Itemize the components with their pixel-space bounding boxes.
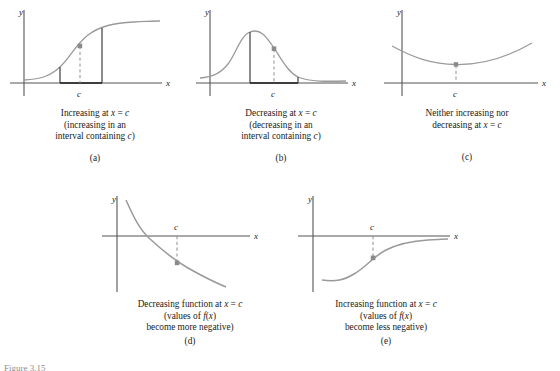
c-label: c: [174, 222, 178, 232]
point-marker: [78, 44, 83, 49]
plot-c-neither-increasing-nor-decreasing: y x c: [374, 4, 560, 104]
curve-parabola: [392, 43, 532, 65]
panel-e: y x c Increasing function at x = c(value…: [288, 192, 484, 346]
figure-caption-cropped: Figure 3.15: [4, 363, 424, 371]
panel-letter-b: (b): [188, 153, 374, 163]
c-label: c: [370, 222, 374, 232]
y-axis-label: y: [204, 7, 209, 17]
y-axis-label: y: [307, 194, 312, 204]
panel-b: y x c Decreasing at x = c(decreasing in …: [188, 4, 374, 163]
plot-b-decreasing-at-c: y x c: [188, 4, 374, 104]
caption-c: Neither increasing nordecreasing at x = …: [374, 108, 560, 131]
point-marker: [272, 46, 277, 51]
caption-b: Decreasing at x = c(decreasing in aninte…: [188, 108, 374, 143]
panel-d: y x c Decreasing function at x = c(value…: [92, 192, 288, 346]
caption-d: Decreasing function at x = c(values of f…: [92, 299, 288, 334]
panel-letter-a: (a): [2, 153, 188, 163]
c-label: c: [77, 89, 81, 99]
caption-e: Increasing function at x = c(values of f…: [288, 299, 484, 334]
panel-c: y x c Neither increasing nordecreasing a…: [374, 4, 560, 162]
curve-rising-sigmoid: [322, 239, 448, 281]
x-axis-label: x: [541, 78, 546, 88]
panel-letter-e: (e): [288, 336, 484, 346]
x-axis-label: x: [165, 78, 170, 88]
curve-decaying-exponential: [126, 200, 226, 287]
x-axis-label: x: [253, 231, 258, 241]
point-marker: [454, 62, 458, 66]
y-axis-label: y: [396, 7, 401, 17]
y-axis-label: y: [111, 194, 116, 204]
caption-a: Increasing at x = c(increasing in aninte…: [2, 108, 188, 143]
point-marker: [371, 256, 376, 261]
x-axis-label: x: [351, 78, 356, 88]
curve-bell: [200, 31, 346, 81]
c-label: c: [453, 89, 457, 99]
panel-a: y x c Increasing at x = c(increasing in …: [2, 4, 188, 163]
point-marker: [175, 261, 180, 266]
y-axis-label: y: [18, 7, 23, 17]
plot-e-increasing-function-at-c: y x c: [288, 192, 484, 297]
panel-letter-d: (d): [92, 336, 288, 346]
c-label: c: [271, 89, 275, 99]
plot-d-decreasing-function-at-c: y x c: [92, 192, 288, 297]
plot-a-increasing-at-c: y x c: [2, 4, 188, 104]
panel-letter-c: (c): [374, 152, 560, 162]
x-axis-label: x: [453, 231, 458, 241]
curve-increasing: [24, 21, 160, 80]
